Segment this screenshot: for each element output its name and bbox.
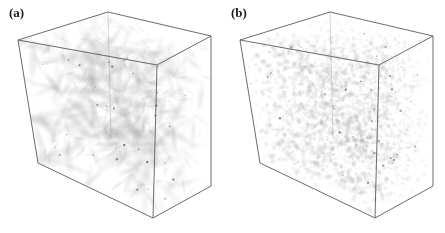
figure-container: (a) (b) (0, 0, 445, 233)
turbulence-volume-b (222, 0, 444, 233)
turbulence-volume-a (0, 0, 222, 233)
panel-a: (a) (0, 0, 222, 233)
panel-label-b: (b) (231, 5, 247, 20)
panel-b: (b) (222, 0, 444, 233)
panel-label-a: (a) (9, 5, 24, 20)
